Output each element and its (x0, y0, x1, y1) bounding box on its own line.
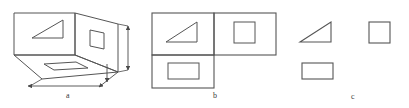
part-label-b: b (213, 92, 217, 100)
bottom-direction-arrow-right (99, 72, 118, 87)
bottom-projection-plane (14, 55, 118, 79)
bottom-left-leader (30, 79, 42, 86)
part-b-unfolded-views (152, 13, 276, 88)
side-view-square (90, 30, 104, 49)
top-view-rectangle (168, 63, 199, 79)
part-label-a: a (66, 92, 70, 100)
frame-front-view (152, 13, 214, 55)
frame-side-view (214, 13, 276, 55)
back-projection-plane (14, 13, 75, 55)
front-view-triangle (300, 22, 331, 42)
part-a-isometric-projection-box (14, 13, 128, 87)
frame-top-view (152, 55, 214, 88)
side-view-square (369, 22, 390, 43)
top-view-rectangle (302, 63, 333, 79)
top-view-rectangle (44, 62, 88, 70)
side-arrow-bottom-tick (118, 70, 128, 72)
figure-container: a b c (0, 0, 409, 108)
side-view-square (234, 22, 255, 43)
front-view-triangle (32, 20, 63, 38)
part-label-c: c (351, 93, 355, 101)
side-arrow-top-tick (118, 24, 128, 26)
front-view-triangle (166, 22, 197, 42)
projection-diagram-svg (0, 0, 409, 108)
part-c-views-only (300, 22, 390, 79)
